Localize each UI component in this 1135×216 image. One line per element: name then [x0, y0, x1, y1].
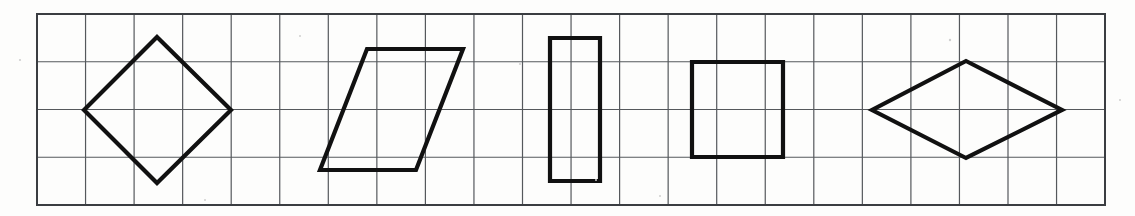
worksheet-canvas: [0, 0, 1135, 216]
background: [0, 0, 1135, 216]
paper-speckle: [204, 199, 206, 201]
paper-speckle: [519, 63, 521, 65]
paper-speckle: [659, 195, 661, 197]
geometry-figure: [0, 0, 1135, 216]
paper-speckle: [19, 59, 21, 61]
paper-speckle: [595, 179, 597, 181]
paper-speckle: [299, 35, 301, 37]
paper-speckle: [1119, 99, 1121, 101]
paper-speckle: [949, 39, 951, 41]
